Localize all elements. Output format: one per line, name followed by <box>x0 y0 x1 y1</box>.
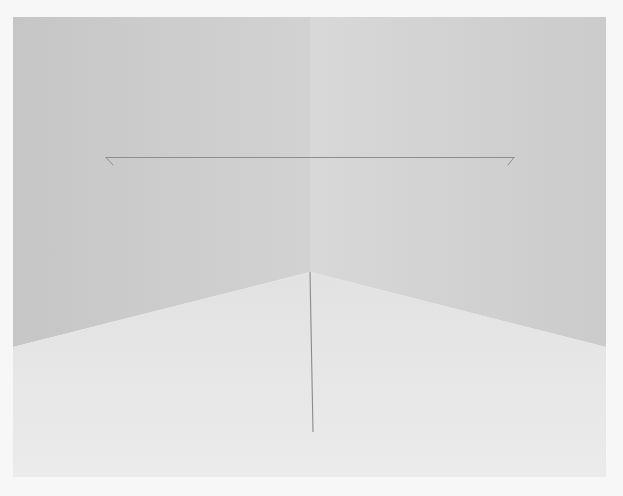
room-corner-photo <box>0 0 623 496</box>
